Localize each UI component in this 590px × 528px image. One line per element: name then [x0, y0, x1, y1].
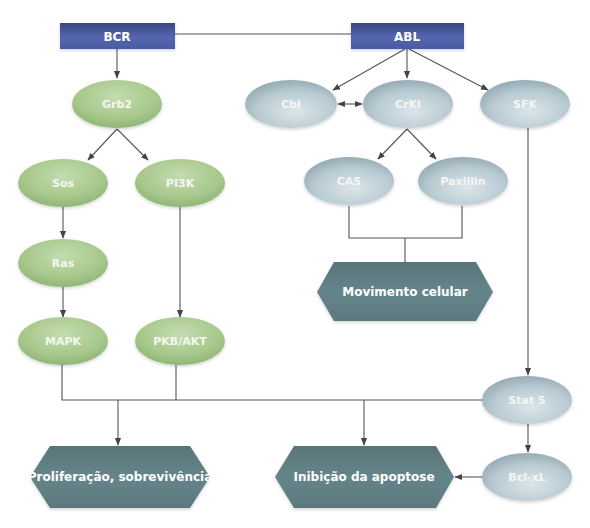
node-crkl-label: CrKl [395, 98, 421, 111]
outcome-proliferacao-label: Proliferação, sobrevivência [28, 470, 213, 484]
node-sos: Sos [18, 159, 108, 207]
edge-bus [62, 365, 484, 400]
node-stat5-label: Stat 5 [508, 394, 545, 407]
node-crkl: CrKl [363, 80, 453, 128]
node-abl: ABL [351, 23, 464, 49]
node-bcl-xl: Bcl-xL [482, 453, 572, 501]
node-pi3k-label: PI3K [166, 177, 195, 190]
outcome-inibicao-apoptose: Inibição da apoptose [275, 446, 454, 508]
node-grb2: Grb2 [72, 80, 162, 128]
edge-crkl-paxillin [407, 129, 436, 159]
node-abl-label: ABL [394, 30, 420, 44]
node-sos-label: Sos [52, 177, 74, 190]
node-bcl-xl-label: Bcl-xL [508, 471, 545, 484]
node-ras-label: Ras [52, 257, 75, 270]
node-cbl: Cbl [245, 80, 337, 128]
node-sfk-label: SFK [513, 98, 537, 111]
node-stat5: Stat 5 [482, 376, 572, 424]
edge-crkl-cas [378, 129, 407, 159]
node-grb2-label: Grb2 [102, 98, 132, 111]
outcome-movimento-celular-label: Movimento celular [342, 285, 468, 299]
node-bcr-label: BCR [103, 30, 130, 44]
node-paxillin-label: Paxillin [440, 175, 485, 188]
bcr-abl-pathway-diagram: BCR ABL Grb2 Sos PI3K Ras MAPK PKB/AKT C… [0, 0, 590, 528]
edge-grb2-pi3k [117, 129, 148, 160]
node-paxillin: Paxillin [418, 157, 508, 205]
outcome-inibicao-apoptose-label: Inibição da apoptose [293, 470, 434, 484]
node-cbl-label: Cbl [281, 98, 301, 111]
node-mapk: MAPK [18, 317, 108, 365]
node-cas-label: CAS [337, 175, 362, 188]
node-ras: Ras [18, 239, 108, 287]
node-bcr: BCR [60, 23, 175, 49]
edge-cas-paxillin-merge [349, 206, 462, 238]
edge-grb2-sos [88, 129, 117, 160]
node-cas: CAS [304, 157, 394, 205]
node-pi3k: PI3K [135, 159, 225, 207]
node-pkb-akt-label: PKB/AKT [153, 335, 207, 348]
outcome-proliferacao: Proliferação, sobrevivência [28, 446, 213, 508]
node-pkb-akt: PKB/AKT [135, 317, 225, 365]
node-mapk-label: MAPK [45, 335, 82, 348]
outcome-movimento-celular: Movimento celular [317, 262, 493, 321]
node-sfk: SFK [480, 80, 570, 128]
